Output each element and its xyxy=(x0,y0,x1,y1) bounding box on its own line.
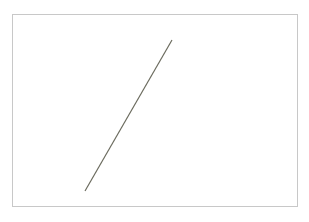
plot-area xyxy=(0,0,309,222)
data-line xyxy=(85,40,172,191)
